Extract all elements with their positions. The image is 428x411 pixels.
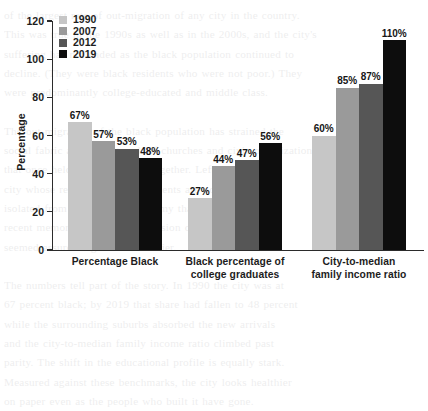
bar-group: 60%85%87%110% — [312, 21, 406, 250]
bar-2007[interactable]: 85% — [336, 21, 360, 250]
bar-2012[interactable]: 87% — [359, 21, 383, 250]
bar-rect — [115, 149, 139, 250]
bar-rect — [139, 158, 163, 250]
bar-group: 67%57%53%48% — [68, 21, 162, 250]
category-label-line: Percentage Black — [45, 256, 185, 269]
y-axis-tick-mark — [47, 97, 52, 98]
bar-rect — [336, 88, 360, 250]
y-axis-tick-mark — [47, 59, 52, 60]
category-label: Black percentage ofcollege graduates — [165, 256, 305, 281]
bar-1990[interactable]: 60% — [312, 21, 336, 250]
y-axis-tick-label: 20 — [0, 206, 44, 218]
bar-rect — [359, 84, 383, 250]
plot-area: 67%57%53%48%27%44%47%56%60%85%87%110% — [52, 21, 424, 250]
category-label: City-to-medianfamily income ratio — [289, 256, 428, 281]
bar-2007[interactable]: 44% — [212, 21, 236, 250]
x-axis-line — [52, 250, 424, 251]
bar-rect — [212, 166, 236, 250]
bar-rect — [92, 141, 116, 250]
y-axis-title: Percentage — [15, 82, 27, 202]
bar-rect — [188, 198, 212, 250]
bar-2019[interactable]: 56% — [259, 21, 283, 250]
category-label-line: City-to-median — [289, 256, 428, 269]
category-label-line: college graduates — [165, 269, 305, 282]
y-axis-tick-mark — [47, 211, 52, 212]
category-label-line: Black percentage of — [165, 256, 305, 269]
y-axis-tick-mark — [47, 20, 52, 21]
bar-1990[interactable]: 27% — [188, 21, 212, 250]
category-label: Percentage Black — [45, 256, 185, 269]
y-axis-tick-mark — [47, 135, 52, 136]
bar-value-label: 110% — [371, 28, 417, 39]
y-axis-tick-label: 100 — [0, 53, 44, 65]
bar-rect — [383, 40, 407, 250]
bar-value-label: 56% — [247, 131, 293, 142]
bar-value-label: 48% — [127, 146, 173, 157]
category-label-line: family income ratio — [289, 269, 428, 282]
y-axis-tick-mark — [47, 249, 52, 250]
y-axis-tick-mark — [47, 173, 52, 174]
bar-2012[interactable]: 53% — [115, 21, 139, 250]
bar-rect — [68, 122, 92, 250]
y-axis-tick-label: 120 — [0, 15, 44, 27]
bar-rect — [235, 160, 259, 250]
y-axis-tick-label: 0 — [0, 244, 44, 256]
bar-rect — [312, 136, 336, 251]
bar-rect — [259, 143, 283, 250]
bar-2019[interactable]: 110% — [383, 21, 407, 250]
bar-2019[interactable]: 48% — [139, 21, 163, 250]
bar-group: 27%44%47%56% — [188, 21, 282, 250]
